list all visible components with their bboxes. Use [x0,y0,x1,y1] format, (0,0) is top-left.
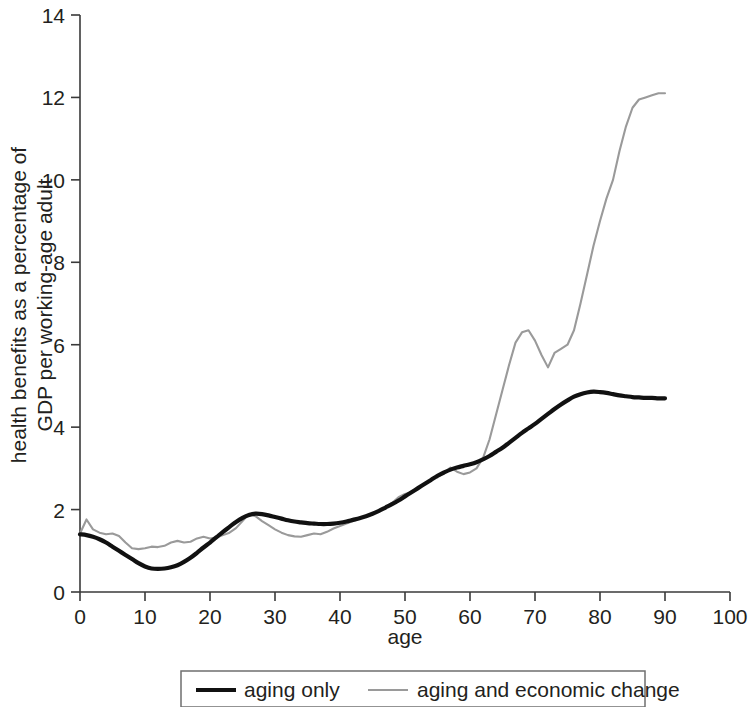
y-tick-label: 12 [42,86,65,109]
x-tick-label: 70 [523,605,546,628]
x-tick-label: 20 [198,605,221,628]
chart-figure: 02468101214 0102030405060708090100 healt… [0,0,752,707]
x-tick-label: 80 [588,605,611,628]
legend-label-aging-only: aging only [244,678,340,701]
x-tick-label: 10 [133,605,156,628]
y-tick-label: 2 [53,499,65,522]
x-tick-label: 90 [653,605,676,628]
x-tick-label: 40 [328,605,351,628]
y-tick-label: 14 [42,4,66,27]
y-tick-label: 0 [53,581,65,604]
y-axis-title-line1: health benefits as a percentage of [7,147,30,464]
x-tick-label: 100 [712,605,747,628]
x-axis-title: age [387,625,422,648]
chart-background [0,0,752,707]
x-tick-label: 60 [458,605,481,628]
y-axis-title-line2: GDP per working-age adult [33,178,56,431]
legend-label-aging-and-economic-change: aging and economic change [417,678,680,701]
line-chart: 02468101214 0102030405060708090100 healt… [0,0,752,707]
x-tick-label: 0 [74,605,86,628]
x-tick-label: 30 [263,605,286,628]
